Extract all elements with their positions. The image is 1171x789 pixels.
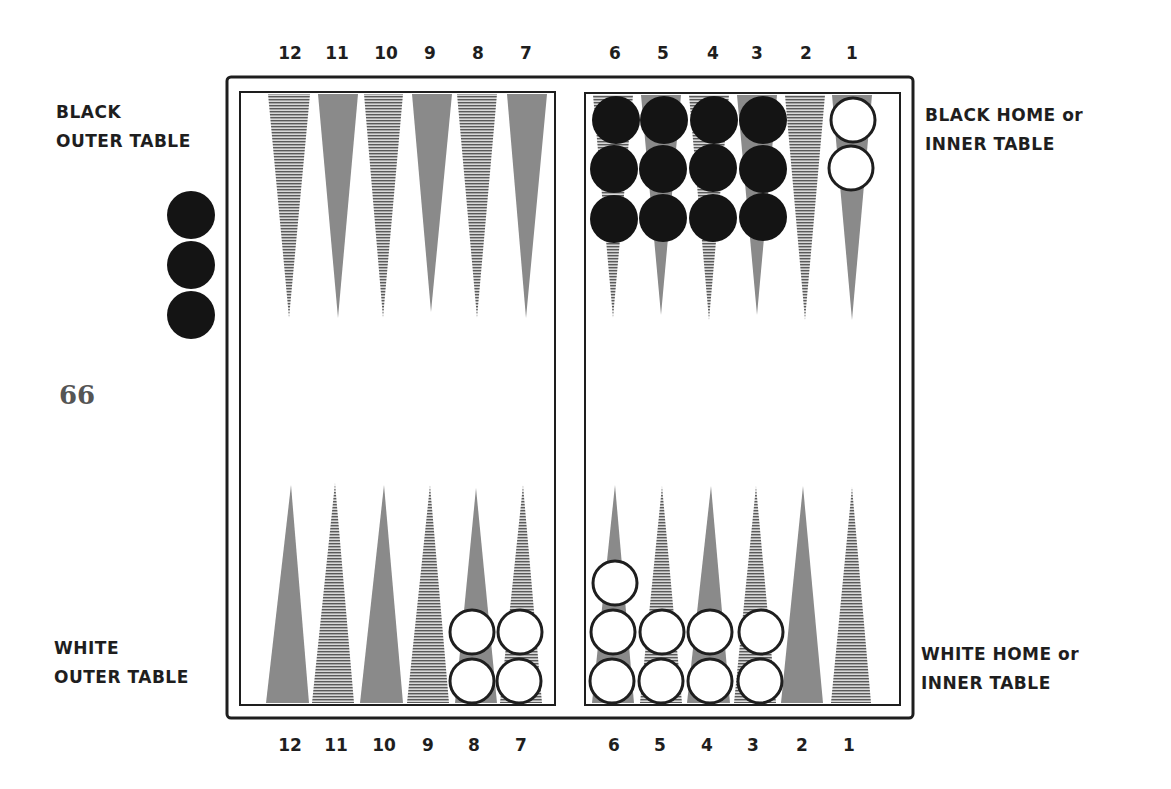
point-number: 3 [733,735,773,755]
white-checker [688,659,732,703]
white-home-table-label: WHITE HOME or INNER TABLE [921,640,1079,698]
white-checker [640,610,684,654]
white-checker [831,98,875,142]
black-checker [592,96,640,144]
point-number: 10 [366,43,406,63]
black-checker [167,241,215,289]
point-number: 1 [832,43,872,63]
point-number: 9 [408,735,448,755]
point-number: 11 [317,43,357,63]
point-number: 12 [270,735,310,755]
label-line: BLACK [56,98,191,127]
point-number: 2 [786,43,826,63]
point-number: 6 [594,735,634,755]
white-checker [591,610,635,654]
white-checker [639,659,683,703]
white-checker [450,659,494,703]
label-line: OUTER TABLE [56,127,191,156]
point-number: 5 [643,43,683,63]
label-line: OUTER TABLE [54,663,189,692]
black-checker [739,96,787,144]
point-number: 11 [316,735,356,755]
white-checker [738,659,782,703]
label-line: WHITE HOME or [921,640,1079,669]
black-checker [689,144,737,192]
black-checker [590,195,638,243]
white-checker [829,146,873,190]
white-checker [497,659,541,703]
black-checker [689,194,737,242]
black-checker [739,145,787,193]
point-number: 7 [501,735,541,755]
black-home-table-label: BLACK HOME or INNER TABLE [925,101,1083,159]
point-number: 9 [410,43,450,63]
point-number: 5 [640,735,680,755]
white-checker [688,610,732,654]
white-checker [498,610,542,654]
point-number: 6 [595,43,635,63]
white-checker [593,561,637,605]
white-outer-table-label: WHITE OUTER TABLE [54,634,189,692]
point-number: 4 [687,735,727,755]
black-checker [639,145,687,193]
point-number: 12 [270,43,310,63]
black-checker [739,193,787,241]
black-checker [690,96,738,144]
white-checker [739,610,783,654]
black-checker [640,96,688,144]
point-number: 8 [454,735,494,755]
black-checker [590,145,638,193]
black-outer-table-label: BLACK OUTER TABLE [56,98,191,156]
point-number: 4 [693,43,733,63]
point-number: 1 [829,735,869,755]
white-checker [590,659,634,703]
label-line: BLACK HOME or [925,101,1083,130]
point-number: 10 [364,735,404,755]
point-number: 2 [782,735,822,755]
point-number: 8 [458,43,498,63]
black-checker [639,194,687,242]
black-checker [167,191,215,239]
white-checker [450,610,494,654]
label-line: WHITE [54,634,189,663]
label-line: INNER TABLE [925,130,1083,159]
page-number: 66 [59,380,95,410]
label-line: INNER TABLE [921,669,1079,698]
black-checkers-off-board [167,191,215,339]
black-checker [167,291,215,339]
point-number: 3 [737,43,777,63]
point-number: 7 [506,43,546,63]
